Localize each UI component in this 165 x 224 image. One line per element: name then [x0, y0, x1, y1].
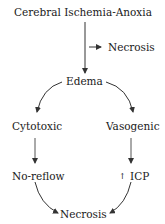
diagram-arrows — [0, 0, 165, 224]
arrow-noreflow-to-necrosis — [35, 182, 58, 213]
node-necrosis-side: Necrosis — [108, 41, 155, 53]
node-necrosis-final: Necrosis — [60, 208, 107, 220]
node-edema: Edema — [66, 75, 103, 87]
node-vasogenic: Vasogenic — [106, 120, 160, 132]
node-cerebral-ischemia-anoxia: Cerebral Ischemia-Anoxia — [14, 6, 152, 18]
arrow-edema-to-vasogenic — [106, 82, 133, 112]
increase-arrow-icon: ↑ — [119, 171, 126, 183]
node-no-reflow: No-reflow — [12, 170, 65, 182]
arrow-edema-to-cytotoxic — [37, 82, 62, 112]
node-icp: ICP — [130, 170, 149, 182]
node-cytotoxic: Cytotoxic — [12, 120, 62, 132]
arrow-icp-to-necrosis — [110, 182, 131, 213]
